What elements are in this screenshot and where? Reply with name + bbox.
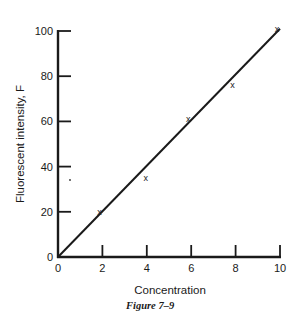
chart-figure: 020406080100 0246810 xxxxx Fluorescent i… [0,0,303,319]
y-tick-label: 80 [41,70,53,82]
figure-caption: Figure 7–9 [125,300,175,311]
fit-line [58,29,280,257]
y-tick-label: 20 [41,206,53,218]
x-tick-label: 0 [55,262,61,274]
data-point-marker: x [230,80,235,90]
y-tick-label: 0 [47,251,53,263]
x-tick-label: 6 [188,262,194,274]
data-point-marker: x [97,207,102,217]
x-axis-title: Concentration [134,284,206,296]
y-tick-label: 60 [41,115,53,127]
x-tick-label: 2 [99,262,105,274]
data-point-marker: x [186,114,191,124]
y-tick-label: 100 [35,25,53,37]
x-tick-label: 10 [274,262,286,274]
x-tick-label: 8 [233,262,239,274]
y-axis-ticks: 020406080100 [35,25,71,263]
data-point-marker: x [275,24,280,34]
y-tick-label: 40 [41,161,53,173]
x-axis-ticks: 0246810 [55,245,286,274]
data-point-marker: x [144,173,149,183]
y-axis-title: Fluorescent intensity, F [14,85,26,203]
stray-dot [69,179,71,181]
x-tick-label: 4 [144,262,150,274]
